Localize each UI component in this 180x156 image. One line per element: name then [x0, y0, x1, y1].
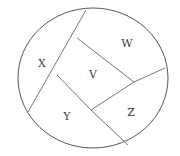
figure-canvas: XWVYZ — [0, 0, 180, 156]
chord-left-center-to-bottom-center — [57, 75, 91, 110]
region-label-z: Z — [127, 106, 135, 119]
chord-bottom-center-to-bottom-edge — [91, 110, 128, 145]
region-label-group: XWVYZ — [38, 37, 135, 123]
chord-top-to-lower-left — [28, 10, 86, 112]
region-label-v: V — [88, 68, 98, 81]
chord-right-center-to-right-edge — [134, 68, 165, 82]
region-label-y: Y — [62, 110, 71, 123]
region-label-w: W — [121, 37, 133, 50]
region-label-x: X — [38, 57, 46, 70]
geometry-figure: XWVYZ — [0, 0, 180, 156]
